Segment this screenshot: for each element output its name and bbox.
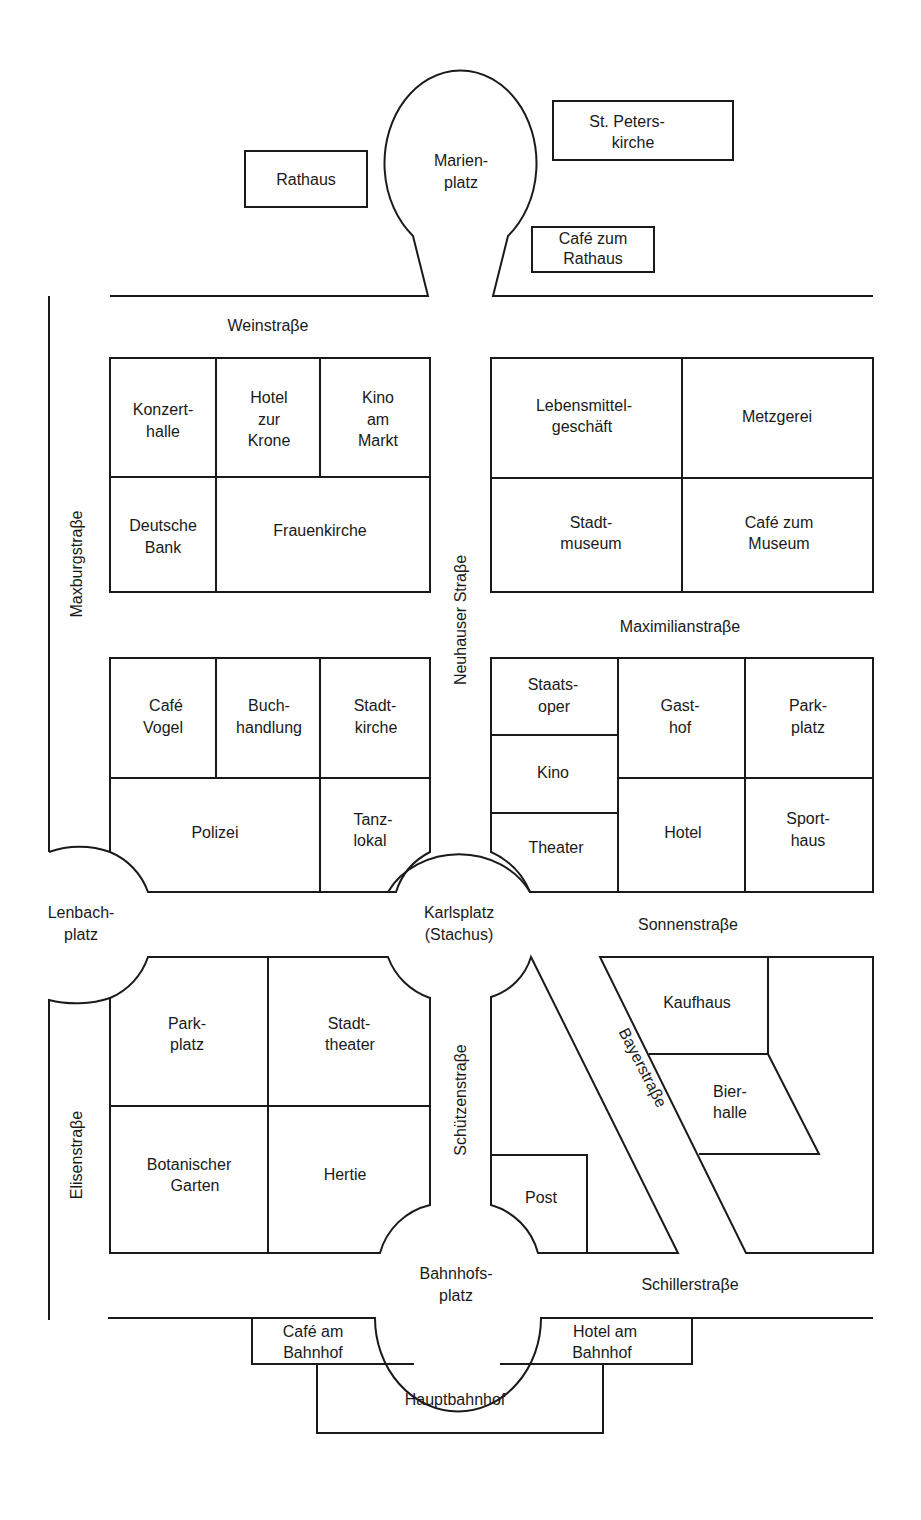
street-weinstrasse[interactable]: Weinstraβe	[228, 317, 309, 334]
square-lenbachplatz[interactable]: Lenbach- platz	[48, 904, 115, 943]
svg-text:Lenbach-: Lenbach-	[48, 904, 115, 921]
svg-text:Sport-: Sport-	[786, 810, 830, 827]
svg-text:Post: Post	[525, 1189, 558, 1206]
svg-text:Café zum: Café zum	[559, 230, 627, 247]
svg-text:Theater: Theater	[528, 839, 584, 856]
street-schuetzenstrasse[interactable]: Schützenstraβe	[452, 1044, 469, 1156]
svg-text:Stadt-: Stadt-	[328, 1015, 371, 1032]
svg-text:oper: oper	[538, 698, 571, 715]
block-middle-west	[110, 658, 430, 892]
svg-text:Café: Café	[149, 697, 183, 714]
svg-text:Rathaus: Rathaus	[276, 171, 336, 188]
building-cafe-zum-museum[interactable]: Café zum Museum	[745, 514, 813, 552]
building-buchhandlung[interactable]: Buch- handlung	[236, 697, 302, 736]
building-gasthof[interactable]: Gast- hof	[660, 697, 699, 736]
building-hauptbahnhof[interactable]: Hauptbahnhof	[405, 1391, 506, 1408]
building-konzerthalle[interactable]: Konzert- halle	[133, 401, 193, 440]
svg-text:haus: haus	[791, 832, 826, 849]
building-cafe-vogel[interactable]: Café Vogel	[143, 697, 183, 736]
svg-text:kirche: kirche	[355, 719, 398, 736]
building-cafe-zum-rathaus[interactable]: Café zum Rathaus	[532, 227, 654, 272]
building-st-peterskirche[interactable]: St. Peters- kirche	[553, 101, 733, 160]
city-map: Rathaus St. Peters- kirche Café zum Rath…	[0, 0, 921, 1520]
svg-text:platz: platz	[170, 1036, 204, 1053]
svg-text:Gast-: Gast-	[660, 697, 699, 714]
building-stadtmuseum[interactable]: Stadt- museum	[560, 514, 621, 552]
building-parkplatz-north[interactable]: Park- platz	[789, 697, 827, 736]
svg-text:Tanz-: Tanz-	[353, 811, 392, 828]
building-rathaus[interactable]: Rathaus	[245, 151, 367, 207]
svg-text:halle: halle	[713, 1104, 747, 1121]
svg-text:St. Peters-: St. Peters-	[589, 113, 665, 130]
svg-text:Garten: Garten	[171, 1177, 220, 1194]
square-marienplatz-label[interactable]: Marien-	[434, 152, 488, 169]
svg-text:Hotel: Hotel	[664, 824, 701, 841]
svg-text:zur: zur	[258, 411, 281, 428]
building-metzgerei[interactable]: Metzgerei	[742, 408, 812, 425]
building-bierhalle[interactable]: Bier- halle	[713, 1083, 747, 1121]
building-kino-am-markt[interactable]: Kino am Markt	[358, 389, 399, 449]
building-polizei[interactable]: Polizei	[191, 824, 238, 841]
svg-text:Frauenkirche: Frauenkirche	[273, 522, 366, 539]
svg-text:Konzert-: Konzert-	[133, 401, 193, 418]
svg-text:Markt: Markt	[358, 432, 399, 449]
svg-text:Buch-: Buch-	[248, 697, 290, 714]
svg-text:Karlsplatz: Karlsplatz	[424, 904, 494, 921]
square-bahnhofsplatz[interactable]: Bahnhofs- platz	[420, 1265, 493, 1304]
svg-text:Staats-: Staats-	[528, 676, 579, 693]
building-staatsoper[interactable]: Staats- oper	[528, 676, 579, 715]
svg-text:Stadt-: Stadt-	[354, 697, 397, 714]
street-maximilianstrasse[interactable]: Maximilianstraβe	[620, 618, 740, 635]
building-hotel-am-bahnhof[interactable]: Hotel am Bahnhof	[572, 1323, 637, 1361]
svg-text:Stadt-: Stadt-	[570, 514, 613, 531]
svg-text:Rathaus: Rathaus	[563, 250, 623, 267]
svg-text:Hotel: Hotel	[250, 389, 287, 406]
svg-text:Bier-: Bier-	[713, 1083, 747, 1100]
svg-text:Hertie: Hertie	[324, 1166, 367, 1183]
svg-text:Café zum: Café zum	[745, 514, 813, 531]
building-stadtkirche[interactable]: Stadt- kirche	[354, 697, 398, 736]
svg-text:Krone: Krone	[248, 432, 291, 449]
svg-text:Lebensmittel-: Lebensmittel-	[536, 397, 632, 414]
building-tanzlokal[interactable]: Tanz- lokal	[353, 811, 392, 849]
building-cafe-am-bahnhof[interactable]: Café am Bahnhof	[283, 1323, 344, 1361]
street-bayerstrasse[interactable]: Bayerstraβe	[616, 1025, 670, 1110]
svg-text:Bank: Bank	[145, 539, 182, 556]
street-neuhauser-strasse[interactable]: Neuhauser Straβe	[452, 555, 469, 685]
building-hotel-zur-krone[interactable]: Hotel zur Krone	[248, 389, 291, 449]
svg-text:Park-: Park-	[789, 697, 827, 714]
building-kaufhaus[interactable]: Kaufhaus	[663, 994, 731, 1011]
svg-text:am: am	[367, 411, 389, 428]
building-hotel[interactable]: Hotel	[664, 824, 701, 841]
street-maxburgstrasse[interactable]: Maxburgstraβe	[68, 510, 85, 617]
svg-text:platz: platz	[439, 1287, 473, 1304]
building-parkplatz-south[interactable]: Park- platz	[168, 1015, 206, 1053]
building-theater[interactable]: Theater	[528, 839, 584, 856]
bahnhof-outline	[108, 1318, 873, 1433]
building-botanischer-garten[interactable]: Botanischer Garten	[147, 1156, 232, 1194]
building-stadttheater[interactable]: Stadt- theater	[325, 1015, 375, 1053]
building-lebensmittelgeschaeft[interactable]: Lebensmittel- geschäft	[536, 397, 632, 435]
street-elisenstrasse[interactable]: Elisenstraβe	[68, 1111, 85, 1199]
svg-text:Kaufhaus: Kaufhaus	[663, 994, 731, 1011]
svg-text:hof: hof	[669, 719, 692, 736]
building-post[interactable]: Post	[525, 1189, 558, 1206]
svg-text:platz: platz	[444, 174, 478, 191]
svg-text:platz: platz	[791, 719, 825, 736]
street-schillerstrasse[interactable]: Schillerstraβe	[641, 1276, 738, 1293]
building-hertie[interactable]: Hertie	[324, 1166, 367, 1183]
svg-text:Vogel: Vogel	[143, 719, 183, 736]
building-deutsche-bank[interactable]: Deutsche Bank	[129, 517, 197, 556]
building-frauenkirche[interactable]: Frauenkirche	[273, 522, 366, 539]
svg-text:handlung: handlung	[236, 719, 302, 736]
block-northeast	[491, 358, 873, 592]
svg-text:Hotel am: Hotel am	[573, 1323, 637, 1340]
svg-text:Deutsche: Deutsche	[129, 517, 197, 534]
building-kino[interactable]: Kino	[537, 764, 569, 781]
building-sporthaus[interactable]: Sport- haus	[786, 810, 830, 849]
svg-text:Park-: Park-	[168, 1015, 206, 1032]
square-karlsplatz[interactable]: Karlsplatz (Stachus)	[424, 904, 494, 943]
svg-text:(Stachus): (Stachus)	[425, 926, 493, 943]
block-south-middle	[491, 957, 678, 1253]
street-sonnenstrasse[interactable]: Sonnenstraβe	[638, 916, 738, 933]
